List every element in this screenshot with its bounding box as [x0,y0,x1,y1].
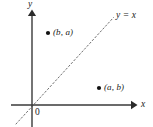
reference-line-label: y = x [116,11,136,21]
y-axis-arrowhead [28,10,36,17]
y-axis-label: y [28,0,32,10]
origin-label: 0 [35,108,40,118]
point-marker-a-b [97,86,101,90]
point-marker-b-a [46,31,50,35]
coordinate-plane-figure: y x 0 y = x (b, a) (a, b) [0,0,153,127]
x-axis-label: x [141,100,145,110]
point-label-a-b: (a, b) [104,83,124,92]
x-axis-arrowhead [131,101,138,109]
point-label-b-a: (b, a) [53,28,73,37]
